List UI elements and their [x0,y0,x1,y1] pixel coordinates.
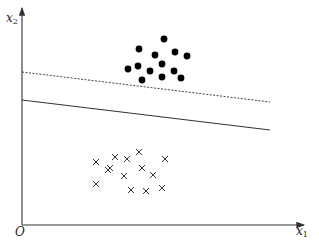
cross-icon [124,156,130,162]
cross-icon [112,154,118,160]
filled-dot-icon [172,49,179,56]
cross-icon [139,165,145,171]
filled-dot-icon [139,77,146,84]
cross-icon [93,159,99,165]
cross-icon [136,149,142,155]
filled-dot-icon [171,68,178,75]
filled-dot-icon [159,74,166,81]
x-axis-label: x1 [296,225,308,239]
filled-dot-icon [184,53,191,60]
dashed-boundary-line [22,72,270,102]
svm-diagram [0,0,319,251]
y-axis-label: x2 [6,12,18,26]
cross-icon [159,185,165,191]
filled-dot-icon [161,36,168,43]
filled-dot-icon [135,63,142,70]
cross-icon [143,188,149,194]
cross-icon [121,173,127,179]
boundary-lines [22,72,270,130]
cross-icon [93,181,99,187]
negative-class-points [93,149,168,194]
cross-icon [162,156,168,162]
filled-dot-icon [125,66,132,73]
filled-dot-icon [159,61,166,68]
filled-dot-icon [178,75,185,82]
origin-label: O [15,226,25,238]
positive-class-points [125,36,191,84]
cross-icon [128,187,134,193]
filled-dot-icon [152,52,159,59]
cross-icon [107,165,113,171]
filled-dot-icon [147,68,154,75]
filled-dot-icon [136,46,143,53]
cross-icon [150,172,156,178]
solid-boundary-line [22,100,270,130]
